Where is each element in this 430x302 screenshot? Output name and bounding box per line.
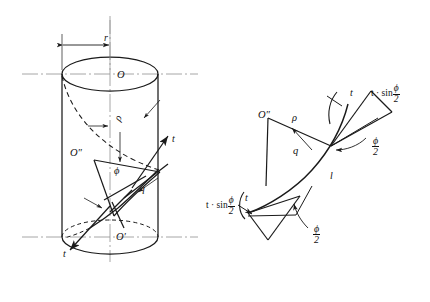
phi-label-left: ϕ — [114, 166, 119, 177]
component-upper-den: 2 — [393, 95, 400, 105]
hook-upper — [329, 92, 337, 124]
lower-tri-inner — [248, 215, 296, 216]
rho-label-right: ρ — [292, 113, 297, 124]
radius-dimension — [62, 20, 110, 70]
left-leaders — [84, 100, 160, 208]
rho-lower-arm — [266, 118, 268, 186]
leader-left-lower — [84, 198, 102, 208]
component-lower-prefix: t · sin — [206, 200, 228, 210]
chord-label-left: l — [142, 186, 145, 196]
tangent-lower-label-left: t — [63, 249, 66, 259]
hook-upper-tick — [327, 96, 342, 106]
component-upper-label: t · sinϕ2 — [371, 84, 400, 104]
radius-label: r — [104, 33, 108, 43]
q-label: q — [293, 146, 298, 157]
figure-canvas: r O O′ O″ ρ ϕ t t l O″ ρ q l t t t · sin… — [0, 0, 430, 302]
wedge-arc — [114, 172, 160, 216]
lower-tri-right — [268, 196, 300, 240]
component-lower-fraction: ϕ2 — [228, 196, 235, 216]
angle-upper-label: ϕ2 — [372, 136, 379, 157]
upper-tri-left — [331, 91, 371, 146]
curvature-wedge — [94, 160, 160, 216]
component-upper-fraction: ϕ2 — [393, 84, 400, 104]
component-lower-den: 2 — [228, 207, 235, 217]
lower-tri-left — [248, 213, 268, 240]
angle-lower-leader — [294, 204, 308, 228]
right-lower-vector-triangle — [248, 186, 312, 240]
rho-upper-arm — [268, 118, 331, 146]
tangent-upper-label-right: t — [350, 88, 353, 98]
tangent-lower-label-right: t — [245, 193, 248, 203]
angle-lower-den: 2 — [313, 235, 320, 245]
curvature-center-label-right: O″ — [258, 110, 270, 121]
right-angle-leaders — [294, 138, 366, 228]
lower-tri-inner2 — [296, 186, 312, 215]
angle-upper-fraction: ϕ2 — [372, 136, 379, 157]
bottom-center-label: O′ — [116, 232, 126, 243]
arc-length-label: l — [330, 171, 333, 181]
lower-tri-top — [248, 196, 300, 213]
angle-lower-label: ϕ2 — [313, 224, 320, 245]
component-upper-num: ϕ — [393, 84, 400, 95]
top-center-label: O — [117, 70, 125, 81]
tangent-lower-arrow — [70, 206, 110, 250]
component-lower-num: ϕ — [228, 196, 235, 207]
curvature-center-label-left: O″ — [70, 148, 82, 159]
component-lower-label: t · sinϕ2 — [206, 196, 235, 216]
tangent-upper-label-left: t — [172, 134, 175, 144]
angle-upper-den: 2 — [372, 147, 379, 157]
component-upper-prefix: t · sin — [371, 88, 393, 98]
wedge-lower-arm — [94, 160, 114, 216]
angle-lower-fraction: ϕ2 — [313, 224, 320, 245]
